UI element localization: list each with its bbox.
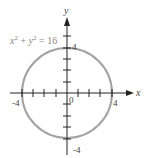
tick-label-x-4: 4 [113, 98, 118, 108]
y-axis-label: y [63, 5, 69, 16]
x-axis-arrow-icon [126, 90, 134, 96]
y-axis-arrow-icon [64, 17, 70, 26]
equation-label: x2 + y2 = 16 [9, 34, 57, 46]
tick-label-x-neg4: -4 [12, 98, 20, 108]
circle-graph: y x 4 -4 -4 4 0 x2 + y2 = 16 [0, 0, 149, 158]
tick-label-y-4: 4 [72, 42, 77, 52]
x-axis-label: x [135, 87, 141, 98]
origin-label: 0 [69, 95, 74, 105]
tick-label-y-neg4: -4 [73, 145, 81, 155]
